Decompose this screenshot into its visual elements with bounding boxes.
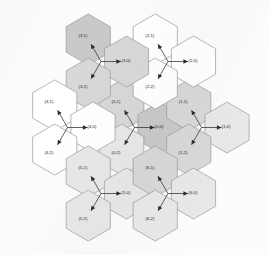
- hex-label: (2,2): [146, 84, 155, 89]
- hex-label: (1,0): [222, 124, 231, 129]
- hex-grid-svg: (0,1)(0,0)(0,2)(1,1)(1,0)(1,2)(2,1)(2,0)…: [0, 0, 269, 255]
- hex-label: (4,1): [45, 99, 54, 104]
- hex-label: (2,0): [189, 58, 198, 63]
- hex-label: (1,2): [179, 150, 188, 155]
- hex-label: (6,0): [189, 190, 198, 195]
- hex-label: (1,1): [179, 99, 188, 104]
- hex-label: (6,2): [146, 216, 155, 221]
- hex-label: (3,2): [79, 84, 88, 89]
- hex-label: (3,1): [79, 33, 88, 38]
- hex-label: (0,2): [112, 150, 121, 155]
- hex-cell-52[interactable]: [66, 190, 110, 241]
- hex-label: (4,0): [88, 124, 97, 129]
- hex-cell-31[interactable]: [66, 14, 110, 65]
- hex-label: (0,0): [155, 124, 164, 129]
- hex-label: (5,0): [122, 190, 131, 195]
- hex-label: (2,1): [146, 33, 155, 38]
- hex-label: (0,1): [112, 99, 121, 104]
- hex-label: (3,0): [122, 58, 131, 63]
- hex-label: (6,1): [146, 165, 155, 170]
- diagram-canvas: (0,1)(0,0)(0,2)(1,1)(1,0)(1,2)(2,1)(2,0)…: [0, 0, 269, 255]
- hex-label: (5,1): [79, 165, 88, 170]
- hex-label: (5,2): [79, 216, 88, 221]
- hex-label: (4,2): [45, 150, 54, 155]
